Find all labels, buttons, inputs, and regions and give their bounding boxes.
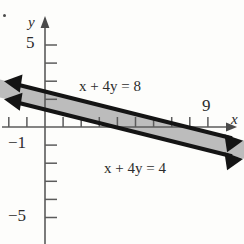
equation-label-top: x + 4y = 8 xyxy=(79,79,141,94)
y-axis-arrow-icon xyxy=(41,16,50,28)
y-axis-ticks-negative xyxy=(45,145,57,217)
y-tick-label-neg1: −1 xyxy=(8,134,26,151)
y-tick-label-5: 5 xyxy=(26,34,35,51)
y-tick-label-neg5: −5 xyxy=(8,207,26,224)
y-axis-label: y xyxy=(28,15,35,30)
graph-figure: y x 5 −1 −5 9 x + 4y = 8 x + 4y = 4 xyxy=(0,0,244,244)
equation-label-bottom: x + 4y = 4 xyxy=(104,161,166,176)
x-axis-ticks-negative xyxy=(9,117,27,127)
graph-canvas xyxy=(0,0,244,244)
x-axis-label: x xyxy=(231,112,238,127)
x-tick-label-9: 9 xyxy=(202,97,211,114)
